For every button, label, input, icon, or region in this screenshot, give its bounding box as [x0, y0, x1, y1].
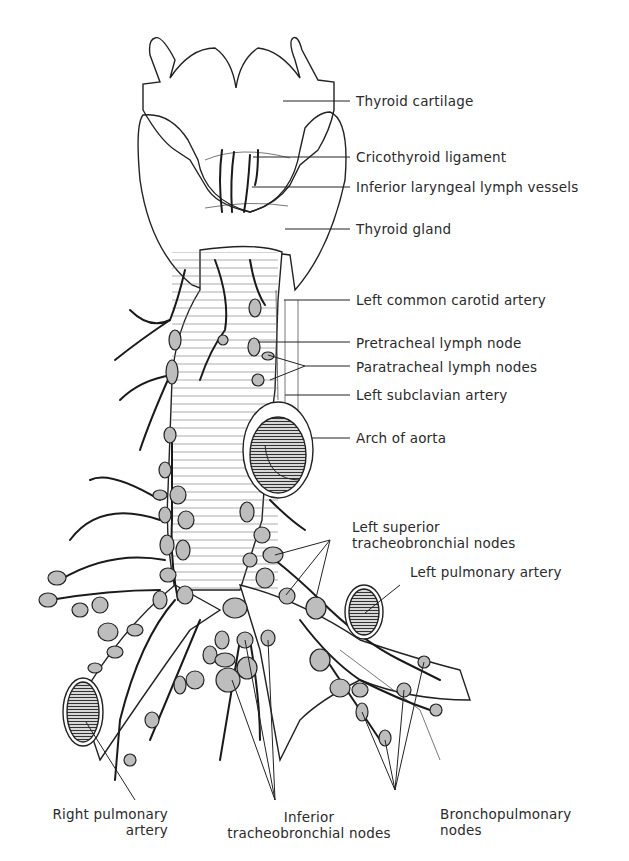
- label-inferior-laryngeal-lymph-vessels: Inferior laryngeal lymph vessels: [356, 179, 578, 195]
- label-left-subclavian-artery: Left subclavian artery: [356, 387, 508, 403]
- label-line-1: Right pulmonary: [30, 806, 168, 822]
- bronchi: [80, 585, 470, 760]
- label-pretracheal-lymph-node: Pretracheal lymph node: [356, 335, 522, 351]
- left-pulmonary-artery-shape: [345, 585, 400, 639]
- label-left-pulmonary-artery: Left pulmonary artery: [410, 564, 562, 580]
- label-line-2: nodes: [440, 822, 571, 838]
- label-thyroid-gland: Thyroid gland: [356, 221, 451, 237]
- label-thyroid-cartilage: Thyroid cartilage: [356, 93, 474, 109]
- label-right-pulmonary-artery: Right pulmonary artery: [30, 806, 168, 838]
- anatomical-diagram: Thyroid cartilage Cricothyroid ligament …: [0, 0, 629, 861]
- label-line-1: Left superior: [352, 519, 515, 535]
- arteries-left: [276, 290, 298, 420]
- diagram-drawing: [0, 0, 629, 861]
- label-arch-of-aorta: Arch of aorta: [356, 430, 446, 446]
- label-line-2: tracheobronchial nodes: [352, 535, 515, 551]
- label-left-superior-tracheobronchial-nodes: Left superior tracheobronchial nodes: [352, 519, 515, 551]
- label-line-2: artery: [30, 822, 168, 838]
- label-line-1: Bronchopulmonary: [440, 806, 571, 822]
- label-inferior-tracheobronchial-nodes: Inferior tracheobronchial nodes: [214, 809, 404, 841]
- label-paratracheal-lymph-nodes: Paratracheal lymph nodes: [356, 359, 537, 375]
- label-bronchopulmonary-nodes: Bronchopulmonary nodes: [440, 806, 571, 838]
- arch-of-aorta-shape: [243, 402, 313, 498]
- label-cricothyroid-ligament: Cricothyroid ligament: [356, 149, 506, 165]
- label-left-common-carotid-artery: Left common carotid artery: [356, 292, 546, 308]
- label-line-1: Inferior: [214, 809, 404, 825]
- label-line-2: tracheobronchial nodes: [214, 825, 404, 841]
